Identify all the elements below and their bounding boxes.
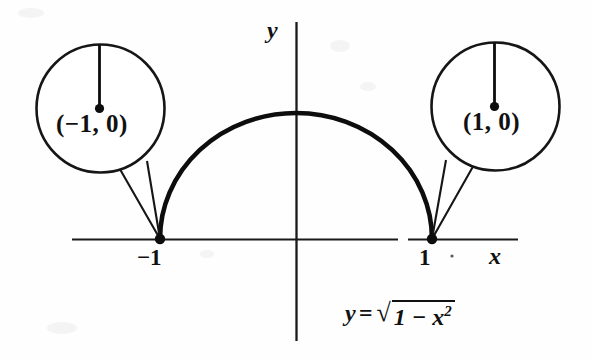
radicand-base: 1 − x: [394, 304, 445, 330]
equation-operator: =: [359, 300, 373, 327]
x-tick-label-one: 1: [419, 245, 431, 271]
figure-container: (−1, 0) (1, 0) −1 1 x y y = √ 1 − x2: [0, 0, 593, 359]
x-axis-label: x: [489, 243, 501, 270]
figure-drawing: [0, 0, 593, 359]
equation-lhs: y: [345, 300, 356, 327]
endpoint-dot-negative-one: [155, 234, 165, 244]
callout-left-tail: [117, 161, 160, 239]
equation-label: y = √ 1 − x2: [345, 300, 455, 331]
callout-left[interactable]: [37, 45, 165, 240]
scan-speck: [450, 254, 453, 257]
endpoint-dot-one: [427, 234, 437, 244]
callout-right-coordinate-label: (1, 0): [463, 108, 520, 136]
equation-radical: √ 1 − x2: [376, 300, 454, 331]
equation-radicand: 1 − x2: [392, 300, 455, 331]
radical-sign-icon: √: [376, 300, 390, 331]
callout-right-tail: [432, 160, 475, 239]
x-tick-label-negative-one: −1: [137, 245, 162, 271]
y-axis-label: y: [267, 17, 278, 44]
radicand-exponent: 2: [444, 303, 452, 319]
callout-left-coordinate-label: (−1, 0): [56, 110, 128, 138]
callout-right[interactable]: [432, 43, 560, 240]
